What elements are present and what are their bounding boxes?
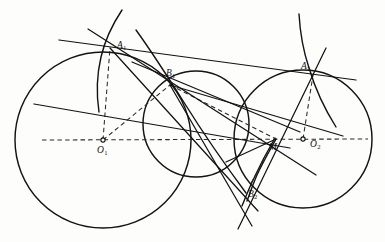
arc-through-A1 [97,10,122,112]
radius-O1-A1 [103,48,110,140]
lines-group [34,29,356,229]
point-label-A2: A2 [301,62,310,72]
center-marker-O2 [301,137,305,141]
radius-O1-B1 [103,85,170,140]
dashed-group [42,48,368,185]
point-label-B1: B1 [166,69,175,79]
line-from-left-to-M [34,104,290,148]
point-label-B2: B2 [248,190,257,200]
line-B1-to-M-chord [132,62,300,132]
geometry-canvas [0,0,385,242]
arc-through-B1-to-B2 [136,30,246,193]
geometry-figure: A1 B1 A2 M O1 O2 B2 [0,0,385,242]
tangent-line-A1-A2 [59,40,356,80]
line-B1-to-M-long [170,85,343,136]
point-label-O1: O1 [97,146,107,156]
point-label-M: M [269,143,277,153]
point-label-O2: O2 [310,140,320,150]
arcs-group [97,10,336,206]
center-marker-O1 [101,138,105,142]
point-label-A1: A1 [117,41,126,51]
circle-middle [143,71,249,177]
